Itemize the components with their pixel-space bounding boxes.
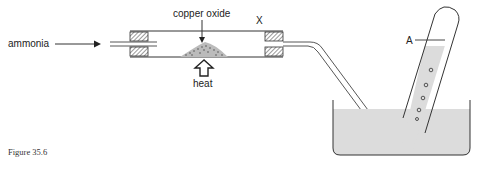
water-trough — [333, 100, 470, 155]
left-bung — [130, 32, 148, 56]
copper-oxide-heap — [180, 42, 228, 57]
copper-oxide-label: copper oxide — [173, 8, 231, 19]
apparatus-diagram: ammonia copper oxide — [0, 0, 482, 169]
heat-arrow-icon — [195, 60, 213, 76]
x-label: X — [256, 15, 263, 26]
inlet-tube — [110, 42, 157, 46]
right-bung — [265, 32, 283, 56]
ammonia-label: ammonia — [8, 38, 50, 49]
figure-35-6: ammonia copper oxide — [0, 0, 482, 169]
heat-label: heat — [193, 78, 213, 89]
figure-caption: Figure 35.6 — [8, 147, 47, 157]
ammonia-arrow-icon — [55, 41, 101, 48]
gas-a-label: A — [406, 35, 413, 46]
